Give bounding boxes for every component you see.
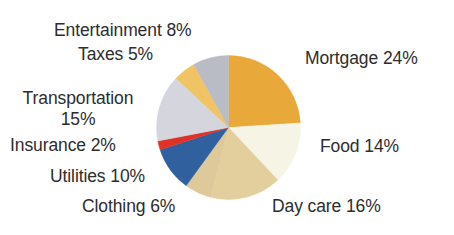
slice-label-food: Food 14% [320, 136, 399, 157]
slice-label-transportation-line1: Transportation [23, 88, 134, 108]
slice-label-clothing: Clothing 6% [82, 196, 175, 217]
slice-label-daycare: Day care 16% [272, 196, 381, 217]
slice-label-taxes: Taxes 5% [78, 44, 153, 65]
pie-chart-figure: Entertainment 8% Taxes 5% Transportation… [0, 0, 454, 235]
pie-slice-mortgage [229, 56, 301, 128]
slice-label-mortgage: Mortgage 24% [305, 48, 418, 69]
slice-label-entertainment: Entertainment 8% [54, 20, 192, 41]
slice-label-transportation-line2: 15% [61, 109, 96, 129]
slice-label-transportation: Transportation 15% [8, 88, 148, 129]
slice-label-utilities: Utilities 10% [50, 166, 145, 187]
pie-chart-graphic [156, 55, 301, 200]
slice-label-insurance: Insurance 2% [10, 135, 116, 156]
pie-slices-svg [156, 55, 301, 200]
